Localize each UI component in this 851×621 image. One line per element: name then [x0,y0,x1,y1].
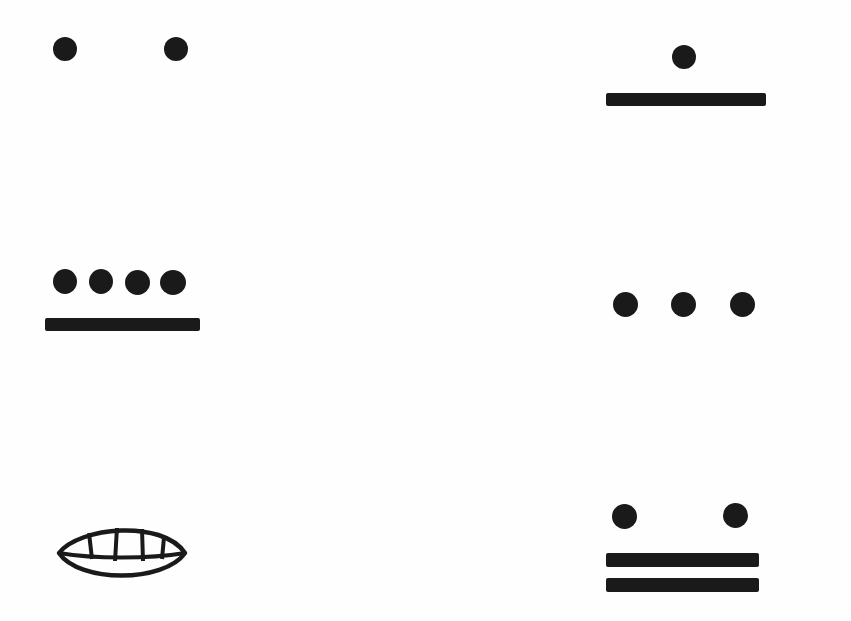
dot [672,45,696,69]
dot [160,270,186,295]
bar [45,318,200,331]
dot [164,37,188,61]
bar [606,93,766,106]
dot [613,292,638,317]
bar [606,553,759,567]
dot [723,503,748,528]
bar [606,578,759,592]
numeral-zero-shell [54,519,190,595]
dot [53,37,77,61]
dot [671,292,696,317]
dot [53,269,77,294]
dot [89,269,113,294]
dot [730,292,755,317]
dot [612,504,637,529]
shell-icon [54,519,190,591]
dot [125,270,150,295]
